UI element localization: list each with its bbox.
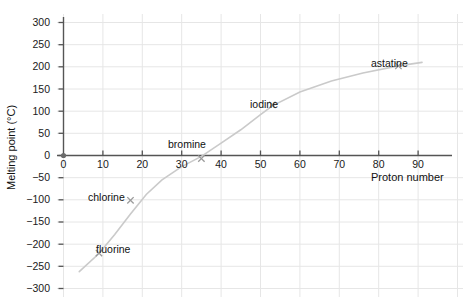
y-tick-300: 300 [8, 17, 50, 28]
point-label-bromine: bromine [168, 139, 206, 150]
x-tick-40: 40 [209, 159, 233, 170]
y-tick-250: 250 [8, 39, 50, 50]
y-tick-neg100: −100 [8, 194, 50, 205]
x-tick-30: 30 [170, 159, 194, 170]
point-label-iodine: iodine [250, 99, 278, 110]
y-tick-neg300: −300 [8, 283, 50, 294]
x-tick-60: 60 [288, 159, 312, 170]
point-label-fluorine: fluorine [96, 244, 130, 255]
point-label-astatine: astatine [371, 58, 408, 69]
x-tick-10: 10 [91, 159, 115, 170]
x-tick-80: 80 [367, 159, 391, 170]
x-tick-90: 90 [406, 159, 430, 170]
x-tick-20: 20 [130, 159, 154, 170]
x-tick-50: 50 [249, 159, 273, 170]
y-tick-neg250: −250 [8, 261, 50, 272]
y-tick-neg200: −200 [8, 239, 50, 250]
x-tick-0: 0 [52, 159, 76, 170]
y-tick-150: 150 [8, 84, 50, 95]
x-axis-title: Proton number [371, 172, 444, 183]
point-label-chlorine: chlorine [88, 192, 125, 203]
chart-canvas [0, 0, 464, 303]
y-tick-neg150: −150 [8, 216, 50, 227]
y-axis-title: Melting point (°C) [6, 105, 17, 190]
x-axis-ticks [103, 151, 418, 156]
y-tick-200: 200 [8, 61, 50, 72]
melting-point-chart: 300 250 200 150 100 50 0 −50 −100 −150 −… [0, 0, 464, 303]
x-tick-70: 70 [327, 159, 351, 170]
